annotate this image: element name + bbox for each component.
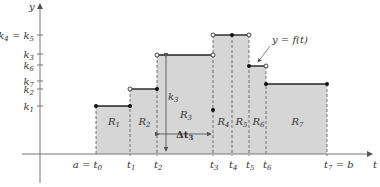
closed-endpoint xyxy=(211,108,215,112)
closed-endpoint xyxy=(94,104,98,108)
x-tick-label: t3 xyxy=(210,159,219,172)
x-tick-label: t6 xyxy=(263,159,272,172)
open-endpoint xyxy=(128,87,132,91)
closed-endpoint xyxy=(128,104,132,108)
closed-endpoint xyxy=(325,82,329,86)
rectangle-R5 xyxy=(232,35,249,154)
x-tick-label: a = t0 xyxy=(73,159,103,172)
open-endpoint xyxy=(211,53,215,57)
rectangle-R1 xyxy=(96,106,130,154)
x-tick-label: t5 xyxy=(246,159,255,172)
x-axis-label: t xyxy=(373,159,378,170)
closed-endpoint xyxy=(247,64,251,68)
y-tick-label: k1 xyxy=(23,101,34,114)
open-endpoint xyxy=(264,64,268,68)
y-tick-label: k4 = k5 xyxy=(0,30,35,43)
rectangle-R6 xyxy=(249,66,266,154)
y-axis-label: y xyxy=(28,1,35,12)
x-tick-label: t2 xyxy=(154,159,163,172)
curve-label-pointer xyxy=(258,46,270,62)
x-tick-label: t1 xyxy=(127,159,136,172)
open-endpoint xyxy=(211,33,215,37)
rectangle-R4 xyxy=(213,35,232,154)
closed-endpoint xyxy=(155,87,159,91)
open-endpoint xyxy=(155,53,159,57)
closed-endpoint xyxy=(264,82,268,86)
rectangles-group xyxy=(96,35,327,154)
curve-label: y = f(t) xyxy=(271,34,308,45)
open-endpoint xyxy=(247,33,251,37)
x-tick-label: t4 xyxy=(229,159,238,172)
x-tick-label: t7 = b xyxy=(324,159,354,172)
step-function-diagram: R1R2R3R4R5R6R7tyk4 = k5k3k6k7k2k1a = t0t… xyxy=(0,0,380,187)
closed-endpoint xyxy=(230,33,234,37)
